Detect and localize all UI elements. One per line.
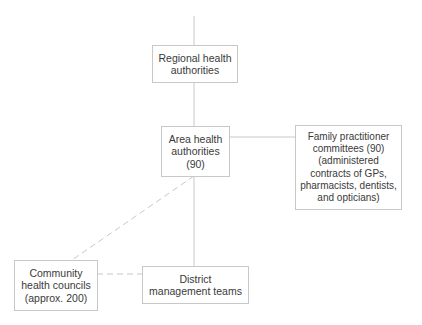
edge-area-community-dashed	[72, 176, 194, 260]
node-district-management-teams: District management teams	[142, 266, 249, 304]
node-community-health-councils: Community health councils (approx. 200)	[14, 260, 98, 311]
node-label: District management teams	[149, 273, 242, 298]
node-label: Family practitioner committees (90) (adm…	[300, 131, 397, 205]
node-family-practitioner-committees: Family practitioner committees (90) (adm…	[295, 125, 402, 210]
node-regional-health-authorities: Regional health authorities	[152, 45, 238, 83]
node-label: Regional health authorities	[159, 52, 232, 77]
node-area-health-authorities: Area health authorities (90)	[161, 126, 230, 177]
node-label: Area health authorities (90)	[169, 133, 223, 171]
node-label: Community health councils (approx. 200)	[21, 267, 90, 305]
